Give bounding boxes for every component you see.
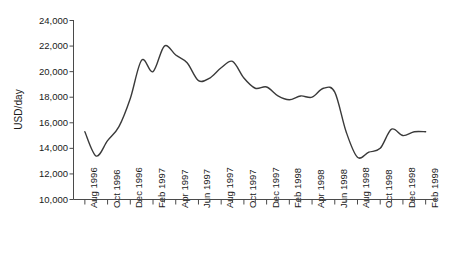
- chart-plot-area: [0, 0, 462, 270]
- data-series-line: [85, 46, 426, 159]
- chart-container: USD/day 10,00012,00014,00016,00018,00020…: [0, 0, 462, 270]
- x-axis-ticks: [85, 200, 426, 205]
- axis-lines: [74, 20, 438, 200]
- y-axis-ticks: [70, 21, 74, 200]
